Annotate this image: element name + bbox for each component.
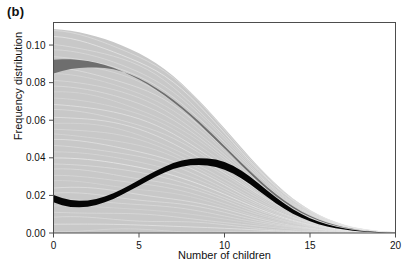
x-axis-title: Number of children (53, 249, 396, 261)
y-tick-label: 0.00 (26, 228, 46, 239)
y-tick-label: 0.08 (26, 77, 46, 88)
y-axis-title: Frequency distribution (12, 0, 24, 176)
figure-panel-b: (b) Frequency distribution Number of chi… (0, 0, 405, 267)
y-tick-label: 0.10 (26, 40, 46, 51)
y-axis-ticks: 0.000.020.040.060.080.10 (26, 40, 53, 239)
y-tick-label: 0.04 (26, 152, 46, 163)
chart-plot-area: 05101520 0.000.020.040.060.080.10 (0, 0, 405, 267)
y-tick-label: 0.02 (26, 190, 46, 201)
y-tick-label: 0.06 (26, 115, 46, 126)
